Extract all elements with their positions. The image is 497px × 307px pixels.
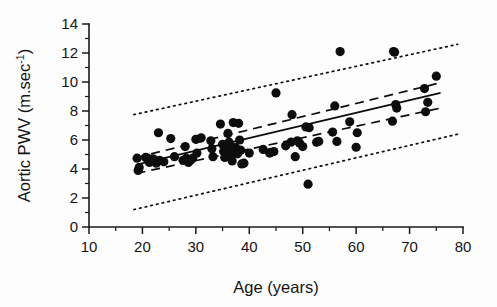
data-point-marker — [392, 104, 401, 113]
data-point-marker — [336, 47, 345, 56]
data-point-marker — [420, 84, 429, 93]
x-tick-label: 60 — [348, 238, 365, 255]
data-point-marker — [181, 142, 190, 151]
data-point-marker — [207, 144, 216, 153]
x-tick-label: 50 — [294, 238, 311, 255]
data-point-marker — [132, 154, 141, 163]
data-point-marker — [332, 137, 341, 146]
data-point-marker — [423, 98, 432, 107]
data-point-marker — [328, 127, 337, 136]
y-tick-label: 10 — [61, 73, 78, 90]
data-point-marker — [197, 133, 206, 142]
y-axis-title: Aortic PWV (m.sec-1) — [14, 49, 33, 202]
y-tick-label: 12 — [61, 44, 78, 61]
data-point-marker — [345, 117, 354, 126]
data-point-marker — [298, 142, 307, 151]
data-point-marker — [223, 129, 232, 138]
x-tick-label: 20 — [134, 238, 151, 255]
data-point-marker — [192, 148, 201, 157]
data-point-marker — [353, 128, 362, 137]
data-point-marker — [330, 101, 339, 110]
data-point-marker — [245, 148, 254, 157]
x-tick-label: 30 — [188, 238, 205, 255]
data-point-marker — [170, 152, 179, 161]
data-point-marker — [208, 152, 217, 161]
x-tick-label: 80 — [455, 238, 472, 255]
x-axis-title: Age (years) — [233, 278, 318, 296]
data-point-marker — [234, 119, 243, 128]
data-point-marker — [236, 146, 245, 155]
data-point-marker — [287, 110, 296, 119]
data-point-marker — [166, 134, 175, 143]
data-point-marker — [421, 107, 430, 116]
data-point-marker — [269, 147, 278, 156]
scatter-plot-chart: 024681012141020304050607080 Age (years)A… — [0, 0, 497, 307]
data-point-marker — [271, 88, 280, 97]
x-tick-label: 70 — [401, 238, 418, 255]
data-point-marker — [235, 135, 244, 144]
data-point-marker — [216, 119, 225, 128]
data-point-marker — [206, 136, 215, 145]
data-point-marker — [390, 48, 399, 57]
data-point-marker — [135, 163, 144, 172]
data-point-marker — [159, 157, 168, 166]
data-point-marker — [239, 159, 248, 168]
data-point-marker — [352, 143, 361, 152]
data-point-marker — [388, 117, 397, 126]
data-point-marker — [303, 180, 312, 189]
data-point-marker — [432, 72, 441, 81]
data-point-marker — [291, 152, 300, 161]
y-tick-label: 14 — [61, 15, 78, 32]
x-tick-label: 10 — [81, 238, 98, 255]
y-tick-label: 2 — [70, 189, 78, 206]
x-tick-label: 40 — [241, 238, 258, 255]
data-point-marker — [314, 137, 323, 146]
data-point-marker — [305, 123, 314, 132]
y-tick-label: 0 — [70, 218, 78, 235]
data-point-marker — [154, 128, 163, 137]
figure-container: 024681012141020304050607080 Age (years)A… — [0, 0, 497, 307]
y-tick-label: 6 — [70, 131, 78, 148]
y-tick-label: 4 — [70, 160, 78, 177]
y-tick-label: 8 — [70, 102, 78, 119]
